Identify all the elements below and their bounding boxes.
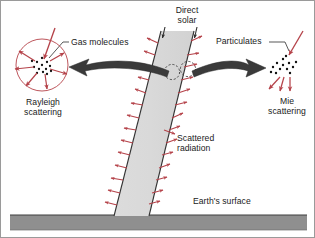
label-gas-molecules: Gas molecules <box>71 38 139 48</box>
particulates-pointer-arrow <box>192 59 266 77</box>
label-direct-solar: Direct solar <box>161 6 213 25</box>
mie-forward-scatter-arrows <box>269 77 290 91</box>
particulates-leader <box>269 42 289 51</box>
direct-solar-beam <box>114 31 194 216</box>
mie-particle-dots <box>270 55 297 74</box>
rayleigh-incoming-ray <box>44 28 55 59</box>
label-mie-scattering: Mie scattering <box>259 97 315 116</box>
mie-incoming-ray <box>289 31 303 55</box>
mie-scattering-panel <box>269 31 303 91</box>
rayleigh-scattering-panel <box>15 28 68 91</box>
label-rayleigh-scattering: Rayleigh scattering <box>10 98 76 117</box>
rayleigh-molecule-dots <box>31 57 52 75</box>
earth-surface-band <box>10 215 307 230</box>
label-scattered-radiation: Scattered radiation <box>177 134 237 153</box>
rayleigh-outgoing-arrows <box>15 51 67 89</box>
gas-molecules-leader-tail <box>49 42 63 58</box>
scattering-diagram-figure: Direct solar Gas molecules Particulates … <box>0 0 315 238</box>
label-earth-surface: Earth's surface <box>193 197 263 207</box>
label-particulates: Particulates <box>216 37 270 47</box>
